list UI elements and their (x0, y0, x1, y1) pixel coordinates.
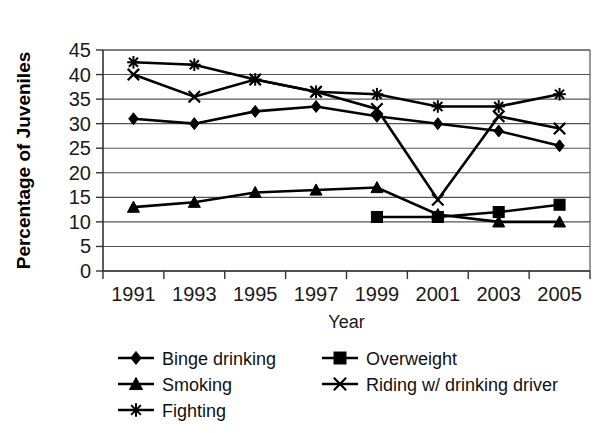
legend-label: Binge drinking (162, 349, 276, 369)
y-tick-label: 15 (69, 186, 91, 208)
series-riding-w-drinking-driver (128, 69, 566, 206)
marker-diamond (190, 118, 199, 130)
legend-item-overweight: Overweight (322, 349, 457, 369)
y-tick-label: 40 (69, 64, 91, 86)
y-tick-label: 5 (80, 235, 91, 257)
x-tick-label: 1993 (172, 283, 217, 305)
y-tick-label: 10 (69, 211, 91, 233)
x-axis-title: Year (328, 312, 364, 332)
legend-label: Overweight (366, 349, 457, 369)
y-gridlines: 051015202530354045 (69, 39, 590, 282)
x-tick-label: 2005 (537, 283, 582, 305)
marker-diamond (433, 118, 442, 130)
chart-figure: 0510152025303540451991199319951997199920… (0, 0, 612, 433)
series-group (127, 56, 566, 227)
y-axis-title: Percentage of Juveniles (13, 52, 34, 270)
x-tick-label: 1991 (111, 283, 156, 305)
marker-diamond (131, 352, 141, 365)
legend-label: Riding w/ drinking driver (366, 375, 558, 395)
legend-item-smoking: Smoking (118, 375, 232, 395)
marker-diamond (311, 100, 320, 112)
y-tick-label: 20 (69, 162, 91, 184)
x-tick-label: 2001 (416, 283, 461, 305)
series-fighting (127, 56, 566, 113)
legend-item-binge-drinking: Binge drinking (118, 349, 276, 369)
series-line (377, 205, 560, 217)
x-tick-label: 1995 (233, 283, 278, 305)
x-tick-label: 1997 (294, 283, 339, 305)
y-tick-label: 35 (69, 88, 91, 110)
legend-label: Smoking (162, 375, 232, 395)
marker-square (334, 352, 346, 364)
x-tick-label: 2003 (476, 283, 521, 305)
marker-square (371, 211, 382, 222)
marker-square (554, 199, 565, 210)
marker-diamond (129, 113, 138, 125)
y-tick-label: 25 (69, 137, 91, 159)
y-tick-label: 0 (80, 260, 91, 282)
y-tick-label: 45 (69, 39, 91, 61)
line-chart: 0510152025303540451991199319951997199920… (0, 0, 612, 433)
legend: Binge drinkingOverweightSmokingRiding w/… (118, 349, 558, 421)
legend-item-fighting: Fighting (118, 401, 226, 421)
plot-frame (103, 50, 590, 271)
legend-item-riding-w-drinking-driver: Riding w/ drinking driver (322, 375, 558, 395)
x-axis-ticks: 19911993199519971999200120032005 (103, 271, 590, 305)
legend-label: Fighting (162, 401, 226, 421)
marker-diamond (251, 105, 260, 117)
marker-diamond (555, 140, 564, 152)
series-smoking (127, 182, 565, 227)
x-tick-label: 1999 (355, 283, 400, 305)
marker-diamond (494, 125, 503, 137)
y-tick-label: 30 (69, 113, 91, 135)
